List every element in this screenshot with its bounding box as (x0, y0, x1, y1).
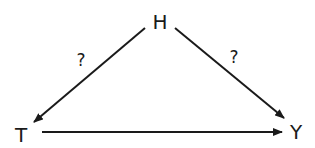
node-t: T (15, 125, 27, 145)
edge-h-to-t-label: ? (76, 52, 85, 69)
edge-h-to-y-label: ? (229, 49, 238, 66)
edge-h-to-t-arrow (34, 28, 145, 122)
node-y: Y (290, 122, 302, 142)
edge-h-to-y-arrow (175, 28, 284, 118)
node-h: H (152, 12, 167, 32)
